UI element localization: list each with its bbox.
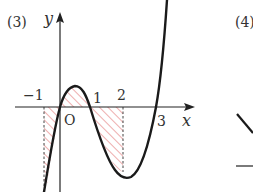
panel-4-label: (4) xyxy=(235,14,253,30)
tick-label-2: 2 xyxy=(117,87,126,103)
x-axis-label: x xyxy=(182,111,191,130)
cubic-curve xyxy=(44,0,167,192)
tick-label-neg1: −1 xyxy=(23,87,44,103)
tick-label-1: 1 xyxy=(93,90,102,106)
panel-4-curve-fragment xyxy=(237,114,253,133)
tick-label-3: 3 xyxy=(157,113,166,129)
panel-3-label: (3) xyxy=(7,14,27,30)
origin-label: O xyxy=(64,112,75,128)
y-axis-label: y xyxy=(43,9,54,28)
graph-canvas: (3) y x O −1 1 2 3 (4) xyxy=(0,0,253,192)
